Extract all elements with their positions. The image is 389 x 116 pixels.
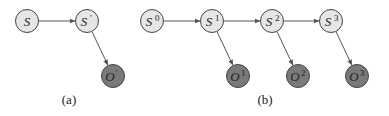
node-superscript: 2	[275, 13, 280, 23]
node-label: S	[24, 14, 31, 29]
node-superscript: 0	[155, 13, 160, 23]
observation-node-O1: O1	[227, 65, 250, 88]
node-superscript: 2	[301, 68, 306, 78]
node-label: S	[266, 14, 273, 29]
panel-caption-1: (b)	[257, 92, 272, 107]
state-node-S1: S1	[201, 10, 224, 33]
edge-S1-to-O1	[217, 31, 233, 65]
observation-node-O2: O2	[287, 65, 310, 88]
panel-caption-0: (a)	[62, 92, 76, 107]
observation-node-O': O'	[102, 65, 125, 88]
node-superscript: 1	[241, 68, 246, 78]
state-node-S3: S3	[320, 10, 343, 33]
edge-S2-to-O2	[277, 31, 293, 65]
node-superscript: 3	[360, 68, 365, 78]
node-label: S	[325, 14, 332, 29]
node-label: O	[349, 69, 359, 84]
edge-S'-to-O'	[92, 31, 108, 65]
edge-S3-to-O3	[336, 31, 352, 65]
node-label: O	[230, 69, 240, 84]
node-label: S	[206, 14, 213, 29]
observation-node-O3: O3	[346, 65, 369, 88]
state-node-S': S'	[76, 10, 99, 33]
node-label: O	[290, 69, 300, 84]
state-node-S: S	[16, 10, 39, 33]
node-label: S	[146, 14, 153, 29]
node-label: O	[105, 69, 115, 84]
captions-layer: (a)(b)	[62, 92, 273, 107]
state-node-S2: S2	[261, 10, 284, 33]
node-label: S	[81, 14, 88, 29]
node-superscript: 1	[215, 13, 220, 23]
state-node-S0: S0	[141, 10, 164, 33]
node-superscript: 3	[334, 13, 339, 23]
graphical-model-diagram: SS'O'S0S1S2S3O1O2O3 (a)(b)	[0, 0, 389, 116]
